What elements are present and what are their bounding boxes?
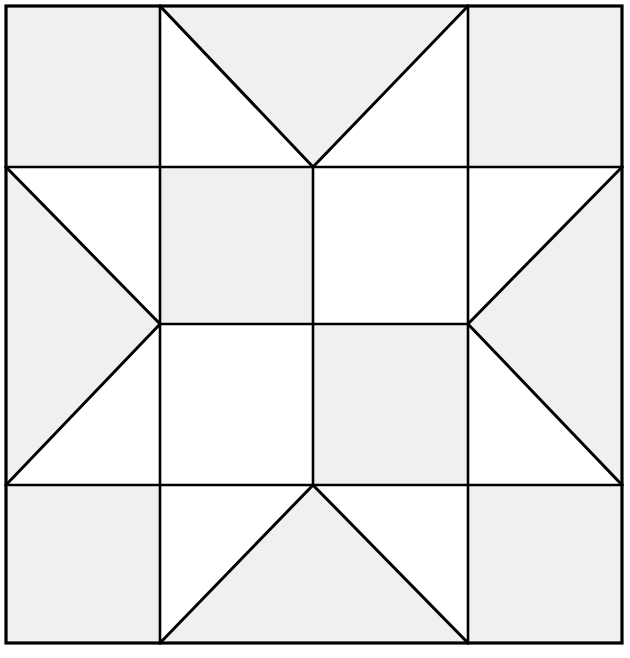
center-cell-bottom-left: [160, 324, 313, 485]
center-cell-top-left: [160, 167, 313, 324]
center-cell-bottom-right: [313, 324, 468, 485]
quilt-block-diagram: [0, 0, 630, 658]
corner-bottom-left: [6, 485, 160, 643]
corner-top-right: [468, 6, 622, 167]
center-cell-top-right: [313, 167, 468, 324]
corner-bottom-right: [468, 485, 622, 643]
quilt-block-canvas: [0, 0, 630, 658]
corner-top-left: [6, 6, 160, 167]
